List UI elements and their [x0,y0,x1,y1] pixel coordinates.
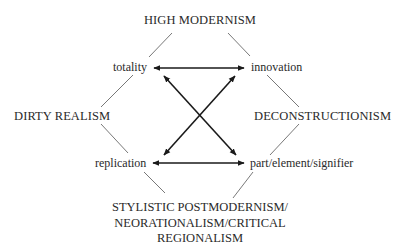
label-deconstructionism: DECONSTRUCTIONISM [254,110,391,123]
term-part-element-signifier: part/element/signifier [250,157,353,169]
line-deconstructionism-part [270,124,299,155]
label-dirty-realism: DIRTY REALISM [14,110,110,123]
line-innovation-deconstructionism [267,75,299,107]
label-stylistic-line-3: REGIONALISM [112,231,288,247]
line-dirtyrealism-replication [101,124,128,153]
term-replication: replication [95,157,146,169]
line-replication-stylistic [144,172,165,193]
line-part-stylistic [233,172,253,198]
semiotic-square-diagram: HIGH MODERNISM DIRTY REALISM DECONSTRUCT… [0,0,397,250]
line-highmodernism-innovation [228,33,250,56]
line-totality-dirtyrealism [101,75,133,107]
label-stylistic-line-2: NEORATIONALISM/CRITICAL [112,216,288,232]
label-stylistic-postmodernism: STYLISTIC POSTMODERNISM/ NEORATIONALISM/… [112,200,288,247]
term-innovation: innovation [251,61,302,73]
label-high-modernism: HIGH MODERNISM [144,14,256,27]
label-stylistic-line-1: STYLISTIC POSTMODERNISM/ [112,200,288,216]
term-totality: totality [113,61,147,73]
line-highmodernism-totality [149,33,172,57]
